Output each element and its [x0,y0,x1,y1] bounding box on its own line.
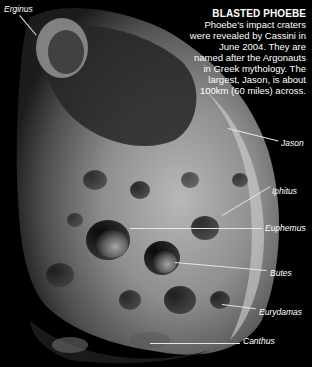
leader-euphemus [130,228,262,229]
label-iphitus: Iphitus [272,186,297,196]
caption-box: BLASTED PHOEBE Phoebe's impact craters w… [188,8,306,96]
label-eurydamas: Eurydamas [259,307,302,317]
caption-body: Phoebe's impact craters were revealed by… [188,19,306,96]
label-euphemus: Euphemus [265,223,306,233]
label-butes: Butes [270,268,292,278]
label-canthus: Canthus [243,336,275,346]
label-erginus: Erginus [4,4,33,14]
caption-title: BLASTED PHOEBE [188,8,306,19]
leader-canthus [150,343,240,344]
label-jason: Jason [281,138,304,148]
